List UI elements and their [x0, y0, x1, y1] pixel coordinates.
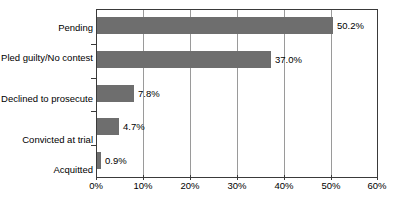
category-tick-4	[91, 145, 97, 146]
category-label-convicted-at-trial: Convicted at trial	[0, 134, 93, 145]
value-label-declined-to-prosecute: 7.8%	[138, 88, 160, 99]
xtick-label-30: 30%	[227, 180, 246, 192]
xtick-label-50: 50%	[321, 180, 340, 192]
value-label-acquitted: 0.9%	[105, 155, 127, 166]
category-label-declined-to-prosecute: Declined to prosecute	[0, 93, 93, 104]
category-tick-2	[91, 78, 97, 79]
category-tick-3	[91, 111, 97, 112]
xtick-label-40: 40%	[274, 180, 293, 192]
xtick-label-0: 0%	[89, 180, 103, 192]
bar-chart: Pending Pled guilty/No contest Declined …	[0, 0, 403, 206]
value-label-pending: 50.2%	[337, 20, 364, 31]
xtick-label-20: 20%	[180, 180, 199, 192]
plot-area: 50.2% 37.0% 7.8% 4.7% 0.9%	[96, 9, 378, 178]
x-axis: 0% 10% 20% 30% 40% 50% 60%	[96, 180, 378, 196]
category-axis-labels: Pending Pled guilty/No contest Declined …	[0, 8, 93, 178]
gridline-50	[331, 10, 332, 177]
xtick-label-10: 10%	[133, 180, 152, 192]
bar-acquitted	[97, 152, 101, 169]
bar-pled-guilty-no-contest	[97, 51, 271, 68]
category-label-acquitted: Acquitted	[0, 164, 93, 175]
value-label-pled-guilty-no-contest: 37.0%	[275, 54, 302, 65]
category-label-pled-guilty-no-contest: Pled guilty/No contest	[0, 52, 93, 63]
category-label-pending: Pending	[0, 22, 93, 33]
bar-pending	[97, 17, 333, 34]
gridline-30	[237, 10, 238, 177]
gridline-40	[284, 10, 285, 177]
xtick-label-60: 60%	[367, 180, 386, 192]
category-tick-1	[91, 44, 97, 45]
gridline-20	[190, 10, 191, 177]
bar-convicted-at-trial	[97, 118, 119, 135]
bar-declined-to-prosecute	[97, 85, 134, 102]
value-label-convicted-at-trial: 4.7%	[123, 121, 145, 132]
